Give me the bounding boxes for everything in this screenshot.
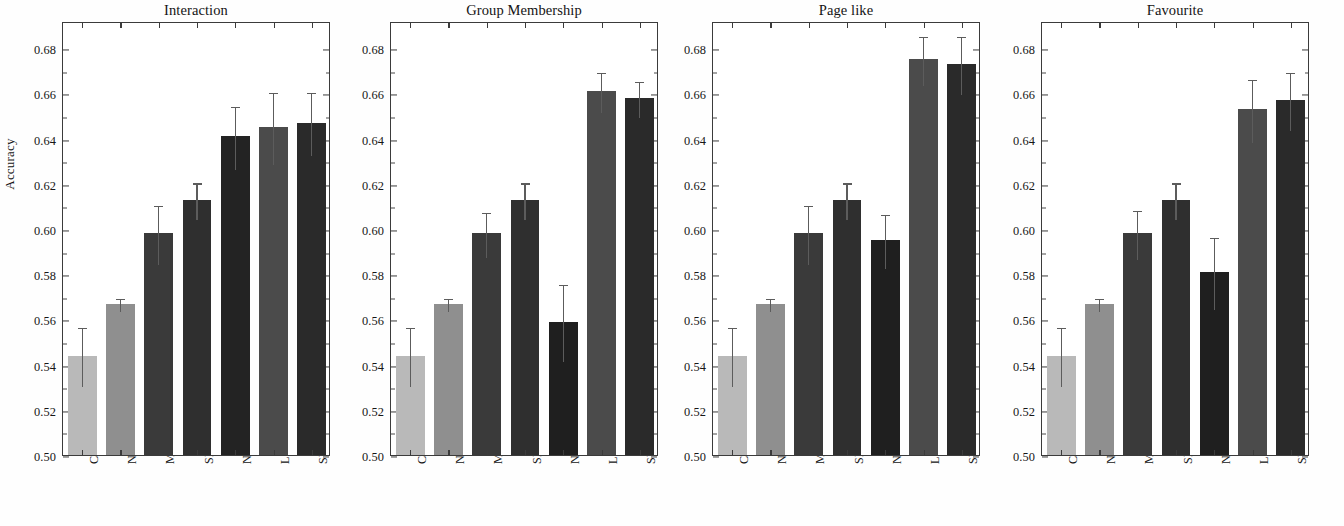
y-axis-tick-mark: [713, 185, 719, 186]
bar: [909, 59, 938, 455]
bar: [259, 127, 288, 455]
bar: [183, 200, 212, 455]
error-bar-cap: [1248, 80, 1257, 81]
y-axis-tick-mark: [63, 185, 69, 186]
y-axis-tick-label: 0.52: [1013, 404, 1035, 419]
x-axis-tick-mark-bottom: [120, 450, 121, 455]
bar: [794, 233, 823, 455]
y-axis-tick-mark: [391, 95, 397, 96]
x-axis-tick-mark-bottom: [1176, 450, 1177, 455]
y-axis-tick-label: 0.54: [34, 359, 56, 374]
x-axis-tick-mark-top: [732, 23, 733, 28]
y-axis-minor-tick-mark: [1042, 343, 1046, 344]
y-axis-tick-mark: [63, 95, 69, 96]
error-bar: [639, 82, 640, 118]
y-axis-minor-tick-mark: [391, 434, 395, 435]
y-axis-tick-label: 0.58: [684, 269, 706, 284]
bar: [871, 240, 900, 455]
y-axis-tick-mark: [391, 321, 397, 322]
error-bar-cap: [919, 37, 928, 38]
x-axis-tick-mark-bottom: [924, 450, 925, 455]
error-bar: [808, 206, 809, 265]
bar: [1276, 100, 1305, 455]
error-bar-cap: [1210, 238, 1219, 239]
y-axis-tick-mark: [1042, 140, 1048, 141]
y-axis-tick-mark: [391, 230, 397, 231]
y-axis-tick-mark: [713, 276, 719, 277]
bar: [1085, 304, 1114, 455]
y-axis-minor-tick-mark-right: [326, 117, 330, 118]
x-axis-tick-mark-bottom: [847, 450, 848, 455]
y-axis-minor-tick-mark: [1042, 72, 1046, 73]
y-axis-tick-label: 0.50: [34, 450, 56, 465]
y-axis-minor-tick-mark: [1042, 117, 1046, 118]
error-bar: [235, 107, 236, 170]
y-axis-minor-tick-mark: [63, 117, 67, 118]
bar: [297, 123, 326, 455]
error-bar-cap: [1172, 183, 1181, 184]
y-axis-tick-label: 0.60: [34, 223, 56, 238]
y-axis-tick-mark: [63, 50, 69, 51]
x-axis-tick-mark-bottom: [274, 450, 275, 455]
bar: [1238, 109, 1267, 455]
y-axis-tick-mark-right: [1302, 50, 1308, 51]
x-axis-tick-mark-bottom: [962, 450, 963, 455]
y-axis-tick-mark: [1042, 50, 1048, 51]
y-axis-minor-tick-mark: [63, 253, 67, 254]
error-bar: [158, 206, 159, 265]
y-axis-minor-tick-mark: [63, 434, 67, 435]
error-bar-cap: [269, 93, 278, 94]
error-bar-cap: [444, 299, 453, 300]
y-axis-tick-mark: [391, 185, 397, 186]
bar: [625, 98, 654, 455]
error-bar: [448, 299, 449, 313]
y-axis-tick-mark-right: [1302, 95, 1308, 96]
y-axis-tick-label: 0.52: [684, 404, 706, 419]
error-bar-cap: [307, 93, 316, 94]
y-axis-minor-tick-mark: [391, 163, 395, 164]
error-bar-cap: [1095, 299, 1104, 300]
y-axis-minor-tick-mark: [391, 208, 395, 209]
error-bar: [770, 299, 771, 313]
error-bar: [961, 37, 962, 96]
y-axis-tick-label: 0.52: [34, 404, 56, 419]
y-axis-tick-mark: [63, 230, 69, 231]
y-axis-tick-label: 0.62: [684, 178, 706, 193]
error-bar-cap: [1133, 211, 1142, 212]
y-axis-tick-label: 0.58: [34, 269, 56, 284]
error-bar-cap: [521, 183, 530, 184]
plot-area: 0.500.520.540.560.580.600.620.640.660.68: [712, 22, 980, 456]
bar: [1162, 200, 1191, 455]
x-axis-tick-mark-bottom: [410, 450, 411, 455]
error-bar: [1214, 238, 1215, 310]
error-bar: [196, 183, 197, 219]
x-axis-tick-mark-top: [1061, 23, 1062, 28]
y-axis-tick-label: 0.50: [1013, 450, 1035, 465]
y-axis-tick-mark-right: [323, 95, 329, 96]
x-axis-tick-mark-top: [602, 23, 603, 28]
x-axis-tick-mark-top: [962, 23, 963, 28]
x-axis-tick-mark-top: [1253, 23, 1254, 28]
bar: [472, 233, 501, 455]
chart-panel: Group MembershipConstNNMFSMBNB-ASAFLR-AS…: [340, 0, 658, 526]
y-axis-tick-label: 0.56: [34, 314, 56, 329]
x-axis-tick-mark-top: [235, 23, 236, 28]
bar: [221, 136, 250, 455]
bar: [756, 304, 785, 455]
y-axis-minor-tick-mark: [713, 208, 717, 209]
x-axis-tick-mark-bottom: [1253, 450, 1254, 455]
y-axis-tick-mark-right: [651, 50, 657, 51]
x-axis-tick-mark-bottom: [1099, 450, 1100, 455]
error-bar: [1252, 80, 1253, 143]
y-axis-minor-tick-mark: [63, 343, 67, 344]
x-axis-tick-mark-bottom: [525, 450, 526, 455]
x-axis-tick-mark-top: [847, 23, 848, 28]
error-bar-cap: [1057, 328, 1066, 329]
x-axis-tick-mark-top: [312, 23, 313, 28]
chart-panel: InteractionConstNNMFSMBNB-ISAFLR-ISAFSVM…: [12, 0, 330, 526]
bar: [144, 233, 173, 455]
bar: [833, 200, 862, 455]
y-axis-tick-label: 0.54: [362, 359, 384, 374]
y-axis-tick-label: 0.64: [362, 133, 384, 148]
error-bar: [601, 73, 602, 114]
